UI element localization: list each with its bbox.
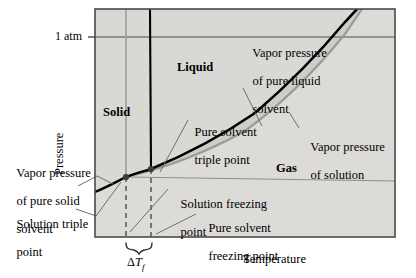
delta-tf-brace xyxy=(126,243,152,254)
annotation-line: Pure solvent xyxy=(195,125,257,139)
solution-triple-point-marker xyxy=(123,174,129,180)
y-axis-tick-label-1atm: 1 atm xyxy=(55,30,82,43)
delta-symbol: Δ xyxy=(127,255,135,269)
annotation-line: Pure solvent xyxy=(209,221,271,235)
delta-variable: T xyxy=(135,255,142,269)
annotation-line: Vapor pressure xyxy=(310,140,385,154)
phase-diagram-figure: 1 atm Pressure Temperature Solid Liquid … xyxy=(0,0,416,278)
region-label-solid: Solid xyxy=(103,105,130,119)
annotation-pure-solvent-triple-point: Pure solvent triple point xyxy=(182,111,257,181)
delta-tf-label: ΔTf xyxy=(127,255,145,272)
region-label-gas: Gas xyxy=(276,161,297,175)
annotation-line: Vapor pressure xyxy=(252,46,327,60)
annotation-line: Solution triple xyxy=(17,217,89,231)
annotation-line: solvent xyxy=(253,102,289,116)
annotation-pure-solvent-freezing-point: Pure solvent freezing point xyxy=(196,207,278,277)
annotation-solution-triple-point: Solution triple point xyxy=(4,203,88,273)
delta-subscript: f xyxy=(142,262,145,272)
annotation-line: triple point xyxy=(195,153,250,167)
annotation-line: freezing point xyxy=(209,249,279,263)
solid-liquid-boundary-pure-solvent xyxy=(150,9,151,169)
annotation-vapor-pressure-of-solution: Vapor pressure of solution xyxy=(298,126,385,196)
annotation-line: Vapor pressure xyxy=(16,166,91,180)
annotation-line: of pure liquid xyxy=(253,74,321,88)
region-label-liquid: Liquid xyxy=(177,60,213,74)
annotation-line: point xyxy=(17,245,43,259)
annotation-line: of solution xyxy=(311,168,365,182)
pure-solvent-triple-point-marker xyxy=(148,166,154,172)
